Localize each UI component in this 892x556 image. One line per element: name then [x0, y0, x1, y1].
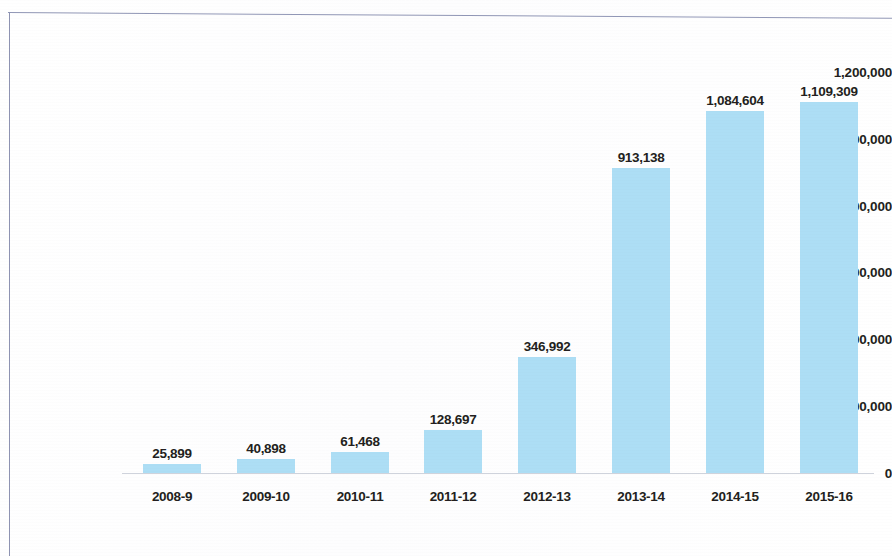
- bar-value-label: 128,697: [397, 412, 509, 427]
- bar-chart: 1,200,000 1,000,000 800,000 600,000 400,…: [0, 0, 892, 556]
- bar-value-label: 1,109,309: [773, 84, 885, 99]
- bar[interactable]: [143, 464, 201, 473]
- x-axis-category-label: 2008-9: [126, 489, 218, 504]
- x-axis-category-label: 2012-13: [501, 489, 593, 504]
- bar-group: 1,084,604: [689, 0, 781, 556]
- x-axis-category-label: 2011-12: [407, 489, 499, 504]
- bar[interactable]: [331, 452, 389, 473]
- bar[interactable]: [706, 111, 764, 473]
- bar-value-label: 346,992: [491, 339, 603, 354]
- bar[interactable]: [237, 459, 295, 473]
- scanned-chart-page: 1,200,000 1,000,000 800,000 600,000 400,…: [0, 0, 892, 556]
- x-axis-category-label: 2015-16: [783, 489, 875, 504]
- bar-value-label: 61,468: [304, 434, 416, 449]
- x-axis-category-label: 2009-10: [220, 489, 312, 504]
- x-axis-category-label: 2010-11: [314, 489, 406, 504]
- bar-group: 25,899: [126, 0, 218, 556]
- bar-group: 913,138: [595, 0, 687, 556]
- bar-group: 1,109,309: [783, 0, 875, 556]
- bar-group: 40,898: [220, 0, 312, 556]
- bar-group: 61,468: [314, 0, 406, 556]
- x-axis-category-label: 2014-15: [689, 489, 781, 504]
- bar[interactable]: [518, 357, 576, 473]
- x-axis-category-label: 2013-14: [595, 489, 687, 504]
- bar[interactable]: [424, 430, 482, 473]
- bar-group: 346,992: [501, 0, 593, 556]
- bar[interactable]: [612, 168, 670, 473]
- bar-group: 128,697: [407, 0, 499, 556]
- bar-value-label: 913,138: [585, 150, 697, 165]
- bar[interactable]: [800, 102, 858, 473]
